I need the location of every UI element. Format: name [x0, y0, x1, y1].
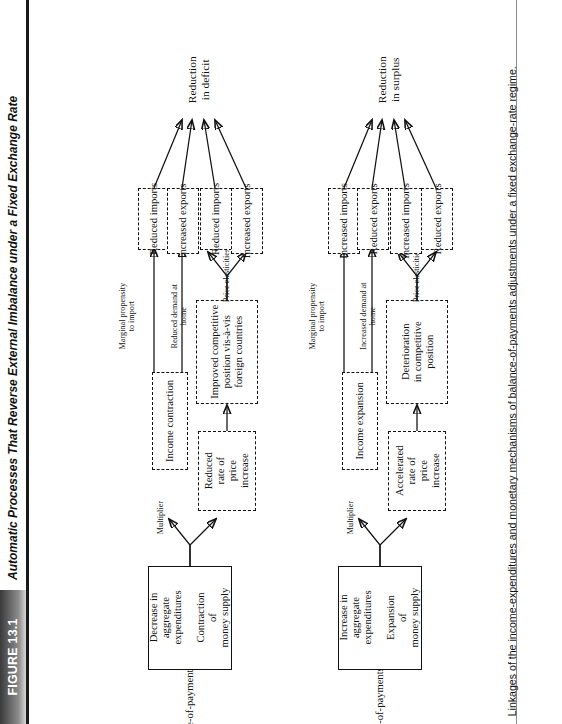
outcome-increased-exports-income: Increased exports: [167, 188, 199, 254]
box-income-expansion: Income expansion: [342, 372, 378, 470]
outcome-reduced-imports-income: Reduced imports: [138, 188, 170, 250]
edge-label-mpi-deficit: Marginal propensity to import: [110, 268, 144, 364]
source-box-deficit: Decrease in aggregate expenditures Contr…: [148, 566, 232, 670]
edge-label-multiplier-surplus: Multiplier: [342, 492, 360, 544]
box-accelerated-rate-of-price-increase: Accelerated rate of price increase: [388, 431, 446, 511]
box-income-contraction: Income contraction: [152, 372, 188, 470]
header-rule: [26, 0, 29, 724]
diagram-canvas: Balance-of-payments deficit Decrease in …: [30, 0, 514, 724]
figure-page: FIGURE 13.1 Automatic Processes That Rev…: [0, 0, 562, 724]
outcome-reduced-exports-price: Reduced exports: [421, 188, 453, 250]
outcome-increased-exports-price: Increased exports: [231, 188, 263, 254]
edge-label-price-elasticities-surplus: Price elasticities: [408, 252, 426, 300]
figure-number-label: FIGURE 13.1: [6, 618, 20, 695]
figure-caption-wrap: Linkages of the income-expenditures and …: [516, 0, 562, 724]
result-reduction-in-deficit: Reduction in deficit: [172, 44, 224, 116]
figure-title: Automatic Processes That Reverse Externa…: [6, 96, 20, 580]
outcome-increased-imports-income: Increased imports: [328, 188, 360, 254]
figure-title-wrap: Automatic Processes That Reverse Externa…: [0, 0, 27, 586]
edge-label-reduced-demand-home: Reduced demand at home: [162, 268, 196, 364]
trigger-deficit: Balance-of-payments deficit: [158, 672, 222, 720]
edge-label-increased-demand-home: Increased demand at home: [352, 268, 386, 364]
edge-label-multiplier-deficit: Multiplier: [152, 492, 170, 544]
figure-number-badge: FIGURE 13.1: [0, 590, 26, 724]
trigger-surplus: Balance-of-payments surplus: [348, 672, 412, 720]
result-reduction-in-surplus: Reduction in surplus: [362, 44, 414, 116]
outcome-increased-imports-price: Increased imports: [390, 188, 422, 254]
box-reduced-rate-of-price-increase: Reduced rate of price increase: [198, 431, 256, 511]
box-improved-competitive-position: Improved competitive position vis-à-vis …: [196, 300, 258, 404]
edge-label-mpi-surplus: Marginal propensity to import: [300, 268, 334, 364]
figure-header-rail: FIGURE 13.1 Automatic Processes That Rev…: [0, 0, 26, 724]
outcome-reduced-exports-income: Reduced exports: [357, 188, 389, 250]
box-deterioration-in-competitive-position: Deterioration in competitive position: [386, 300, 448, 404]
outcome-reduced-imports-price: Reduced imports: [200, 188, 232, 250]
edge-label-price-elasticities-deficit: Price elasticities: [218, 252, 236, 300]
source-box-surplus: Increase in aggregate expenditures Expan…: [338, 566, 422, 670]
